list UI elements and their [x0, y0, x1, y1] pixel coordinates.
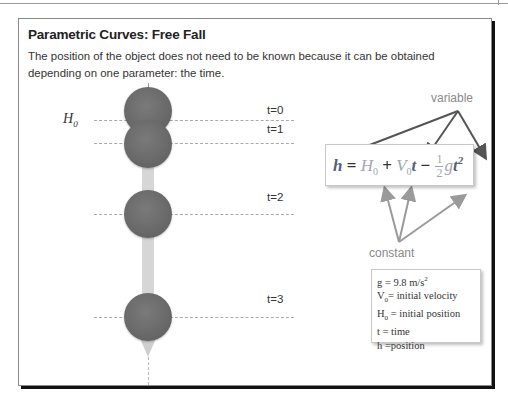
- constant-annotation: constant: [369, 246, 414, 260]
- legend-list: g = 9.8 m/s2 V0= initial velocity H0 = i…: [377, 273, 460, 352]
- legend-box: g = 9.8 m/s2 V0= initial velocity H0 = i…: [371, 269, 481, 343]
- const-g: g: [444, 156, 453, 175]
- legend-item-h0: H0 = initial position: [377, 307, 460, 325]
- const-V0: V0: [396, 156, 411, 175]
- legend-item-h: h =position: [377, 339, 460, 352]
- page-top-rule: [0, 3, 508, 4]
- constant-arrows: [385, 189, 464, 242]
- legend-item-v0: V0= initial velocity: [377, 289, 460, 307]
- legend-item-g: g = 9.8 m/s2: [377, 273, 460, 289]
- page-top-tick: [498, 0, 499, 5]
- legend-item-t: t = time: [377, 325, 460, 338]
- const-H0: H0: [361, 156, 378, 175]
- var-t-squared: t2: [453, 156, 463, 175]
- free-fall-equation: h = H0 + V0t − 12gt2: [333, 154, 463, 179]
- plus-sign: +: [378, 156, 396, 175]
- const-half: 12: [435, 154, 443, 179]
- equals-sign: =: [342, 156, 360, 175]
- minus-sign: −: [416, 156, 434, 175]
- variable-annotation: variable: [431, 91, 473, 105]
- formula-box: h = H0 + V0t − 12gt2: [325, 144, 474, 186]
- slide-frame: Parametric Curves: Free Fall The positio…: [18, 18, 492, 386]
